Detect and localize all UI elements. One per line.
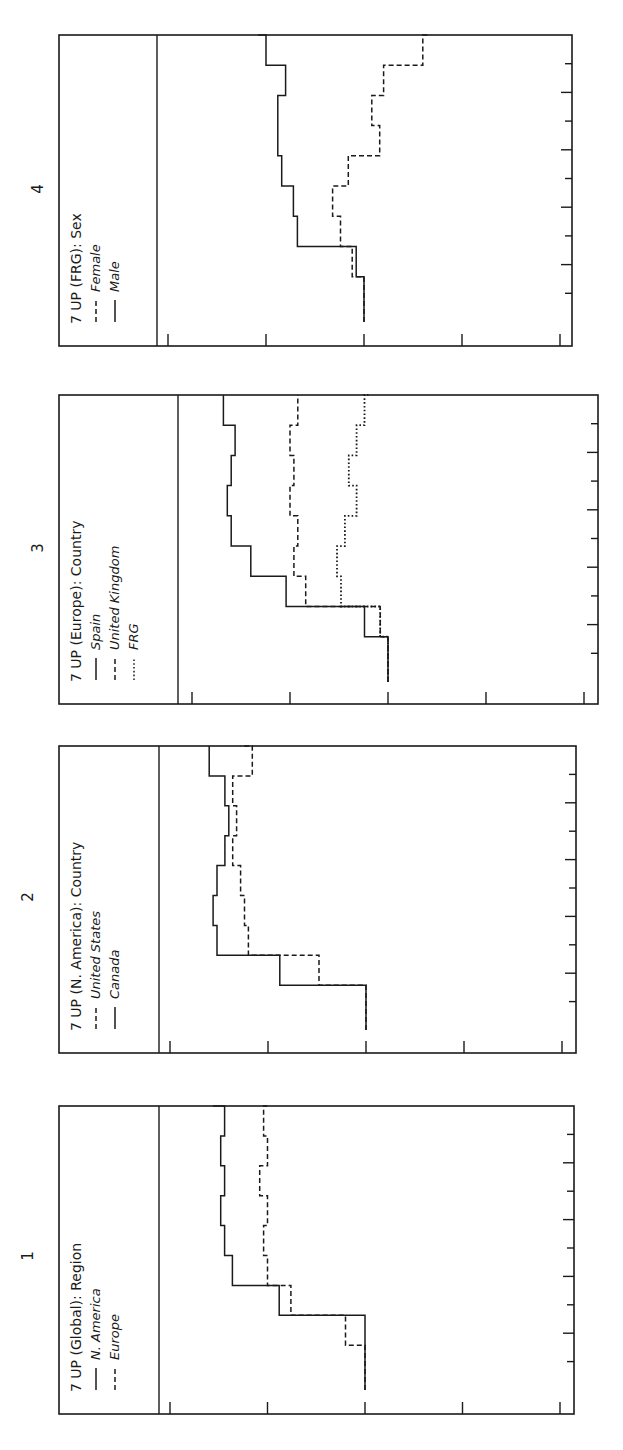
- chart-panel-3: 7 UP (Europe): CountrySpainUnited Kingdo…: [59, 395, 598, 704]
- panel-frame: [59, 746, 576, 1053]
- panel-title: 7 UP (Global): Region: [68, 1243, 84, 1392]
- legend-label: FRG: [126, 623, 141, 650]
- panels-layer: 7 UP (Global): RegionN. AmericaEurope7 U…: [59, 35, 598, 1414]
- panel-title: 7 UP (Europe): Country: [68, 521, 84, 682]
- legend-label: United States: [88, 911, 103, 999]
- legend-label: Female: [88, 244, 103, 292]
- series-line-male: [258, 35, 364, 322]
- chart-panel-2: 7 UP (N. America): CountryUnited StatesC…: [59, 746, 576, 1053]
- series-line-europe: [260, 1106, 365, 1390]
- series-line-united-kingdom: [290, 395, 388, 682]
- series-line-united-states: [233, 746, 366, 1030]
- legend: 7 UP (Europe): CountrySpainUnited Kingdo…: [68, 521, 141, 682]
- series-line-female: [333, 35, 431, 322]
- panel-title: 7 UP (N. America): Country: [68, 842, 84, 1031]
- panel-frame: [59, 1106, 574, 1414]
- legend-label: United Kingdom: [107, 546, 122, 650]
- series-line-spain: [223, 395, 388, 682]
- chart-panel-4: 7 UP (FRG): SexFemaleMale: [59, 35, 572, 346]
- chart-canvas: 7 UP (Global): RegionN. AmericaEurope7 U…: [0, 0, 623, 1450]
- panel-frame: [59, 35, 572, 346]
- legend-label: Spain: [88, 614, 103, 650]
- panel-title: 7 UP (FRG): Sex: [68, 213, 84, 324]
- legend: 7 UP (Global): RegionN. AmericaEurope: [68, 1243, 122, 1392]
- legend-label: Canada: [107, 949, 122, 999]
- series-line-frg: [337, 395, 388, 682]
- legend-label: N. America: [88, 1288, 103, 1360]
- legend-label: Europe: [107, 1314, 122, 1360]
- legend: 7 UP (FRG): SexFemaleMale: [68, 213, 122, 324]
- legend: 7 UP (N. America): CountryUnited StatesC…: [68, 842, 122, 1031]
- legend-label: Male: [107, 261, 122, 292]
- series-line-n-america: [213, 1106, 365, 1390]
- panel-frame: [59, 395, 598, 704]
- series-line-canada: [209, 746, 366, 1030]
- chart-panel-1: 7 UP (Global): RegionN. AmericaEurope: [59, 1106, 574, 1414]
